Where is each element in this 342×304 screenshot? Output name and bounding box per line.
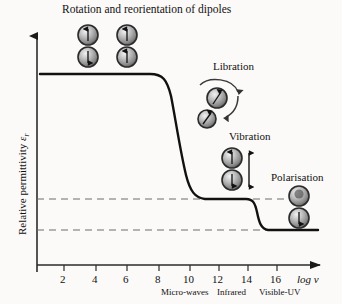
y-axis-label-text: Relative permittivity (16, 144, 28, 235)
dipole-pair-rotation-1 (78, 25, 98, 67)
section-label-libration: Libration (213, 61, 254, 72)
figure-graphics (0, 0, 342, 304)
dipole-pair-libration (198, 80, 238, 128)
x-tick-label-12: 12 (212, 274, 223, 285)
axes (37, 36, 320, 272)
x-tick-label-8: 8 (155, 274, 161, 285)
y-axis-symbol: ε (16, 137, 28, 141)
dielectric-dispersion-figure: Rotation and reorientation of dipoles Re… (0, 0, 342, 304)
band-label-visible-uv: Visible-UV (259, 288, 300, 297)
x-tick-label-16: 16 (270, 274, 281, 285)
libration-rotation-arrow-2 (226, 96, 238, 117)
x-tick-label-10: 10 (183, 274, 194, 285)
x-axis-ticks (64, 265, 277, 271)
x-axis-label: log ν (297, 274, 319, 285)
x-tick-label-2: 2 (60, 274, 66, 285)
band-label-infrared: Infrared (217, 288, 246, 297)
y-axis-label: Relative permittivity εr (16, 134, 31, 235)
dipole-pair-rotation-2 (117, 25, 137, 67)
permittivity-curve (40, 74, 318, 230)
section-label-polarisation: Polarisation (271, 172, 324, 183)
dipole-pair-polarisation (289, 186, 309, 228)
x-tick-label-4: 4 (92, 274, 98, 285)
section-label-vibration: Vibration (229, 131, 271, 142)
y-axis-symbol-subscript: r (22, 134, 31, 137)
dipole-pair-vibration (222, 148, 249, 190)
figure-title: Rotation and reorientation of dipoles (62, 4, 231, 16)
x-tick-label-14: 14 (241, 274, 252, 285)
x-tick-label-6: 6 (123, 274, 129, 285)
band-label-micro-waves: Micro-waves (161, 288, 208, 297)
